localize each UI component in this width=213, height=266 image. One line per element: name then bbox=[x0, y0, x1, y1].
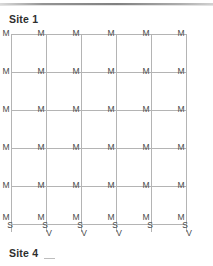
node-label-s-c5-r6: S bbox=[147, 221, 153, 230]
caption-site-4: Site 4 bbox=[9, 247, 38, 259]
node-label-m-c4-r4: M bbox=[107, 143, 114, 152]
grid-column-line-1 bbox=[11, 34, 12, 232]
node-label-m-c5-r2: M bbox=[142, 67, 149, 76]
node-label-m-c4-r5: M bbox=[107, 181, 114, 190]
node-label-m-c5-r1: M bbox=[142, 29, 149, 38]
node-label-m-c3-r3: M bbox=[72, 105, 79, 114]
node-label-m-c5-r3: M bbox=[142, 105, 149, 114]
grid-column-line-3 bbox=[81, 34, 82, 232]
lattice-grid: MMMMMMMMMMMMMMMMMMMMMMMMMMMMMMMSMSVMSVMS… bbox=[0, 0, 213, 266]
node-label-m-c6-r2: M bbox=[177, 67, 184, 76]
grid-row-line-6 bbox=[11, 224, 186, 225]
grid-column-line-6 bbox=[186, 34, 187, 232]
node-label-v-c2-r6: V bbox=[46, 229, 52, 238]
node-label-v-c6-r6: V bbox=[186, 229, 192, 238]
node-label-m-c5-r5: M bbox=[142, 181, 149, 190]
node-label-m-c3-r2: M bbox=[72, 67, 79, 76]
node-label-v-c4-r6: V bbox=[116, 229, 122, 238]
node-label-m-c5-r4: M bbox=[142, 143, 149, 152]
grid-column-line-4 bbox=[116, 34, 117, 232]
node-label-m-c4-r3: M bbox=[107, 105, 114, 114]
node-label-m-c2-r1: M bbox=[37, 29, 44, 38]
node-label-v-c3-r6: V bbox=[81, 229, 87, 238]
grid-column-line-5 bbox=[151, 34, 152, 232]
node-label-m-c4-r1: M bbox=[107, 29, 114, 38]
node-label-m-c6-r5: M bbox=[177, 181, 184, 190]
node-label-m-c1-r4: M bbox=[2, 143, 9, 152]
node-label-m-c2-r5: M bbox=[37, 181, 44, 190]
node-label-m-c3-r1: M bbox=[72, 29, 79, 38]
node-label-m-c1-r3: M bbox=[2, 105, 9, 114]
node-label-m-c4-r2: M bbox=[107, 67, 114, 76]
node-label-m-c2-r4: M bbox=[37, 143, 44, 152]
node-label-m-c1-r2: M bbox=[2, 67, 9, 76]
caption-site-4-underscore-mark bbox=[44, 258, 55, 259]
node-label-m-c3-r4: M bbox=[72, 143, 79, 152]
node-label-m-c1-r1: M bbox=[2, 29, 9, 38]
node-label-m-c6-r3: M bbox=[177, 105, 184, 114]
node-label-s-c1-r6: S bbox=[7, 221, 13, 230]
node-label-m-c3-r5: M bbox=[72, 181, 79, 190]
node-label-m-c2-r2: M bbox=[37, 67, 44, 76]
grid-column-line-2 bbox=[46, 34, 47, 232]
node-label-m-c1-r5: M bbox=[2, 181, 9, 190]
node-label-m-c6-r1: M bbox=[177, 29, 184, 38]
node-label-m-c2-r3: M bbox=[37, 105, 44, 114]
node-label-m-c6-r4: M bbox=[177, 143, 184, 152]
